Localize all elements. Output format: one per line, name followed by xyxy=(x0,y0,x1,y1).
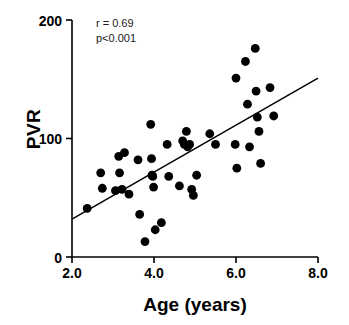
data-point xyxy=(147,154,156,163)
data-point xyxy=(205,129,214,138)
data-point xyxy=(232,74,241,83)
data-point xyxy=(192,171,201,180)
data-point xyxy=(269,112,278,121)
data-point xyxy=(256,159,265,168)
data-point xyxy=(175,182,184,191)
data-point xyxy=(211,140,220,149)
data-point xyxy=(98,184,107,193)
data-point xyxy=(232,164,241,173)
data-point xyxy=(96,168,105,177)
data-point xyxy=(251,44,260,53)
data-point xyxy=(182,127,191,136)
data-point xyxy=(189,191,198,200)
data-point xyxy=(245,142,254,151)
data-points xyxy=(83,44,278,246)
data-point xyxy=(266,83,275,92)
data-point xyxy=(151,225,160,234)
data-point xyxy=(83,204,92,213)
data-point xyxy=(146,120,155,129)
data-point xyxy=(253,113,262,122)
data-point xyxy=(241,57,250,66)
data-point xyxy=(252,87,261,96)
data-point xyxy=(134,155,143,164)
data-point xyxy=(125,190,134,199)
data-point xyxy=(135,210,144,219)
data-point xyxy=(243,100,252,109)
scatter-plot-figure: PVR Age (years) 200 100 0 2.0 4.0 6.0 8.… xyxy=(0,0,349,325)
axis-lines xyxy=(72,20,318,257)
data-point xyxy=(163,140,172,149)
data-point xyxy=(115,168,124,177)
data-point xyxy=(141,237,150,246)
data-point xyxy=(149,183,158,192)
data-point xyxy=(164,172,173,181)
data-point xyxy=(148,172,157,181)
plot-canvas xyxy=(0,0,349,325)
data-point xyxy=(157,218,166,227)
data-point xyxy=(120,148,129,157)
data-point xyxy=(255,127,264,136)
data-point xyxy=(185,140,194,149)
data-point xyxy=(231,140,240,149)
